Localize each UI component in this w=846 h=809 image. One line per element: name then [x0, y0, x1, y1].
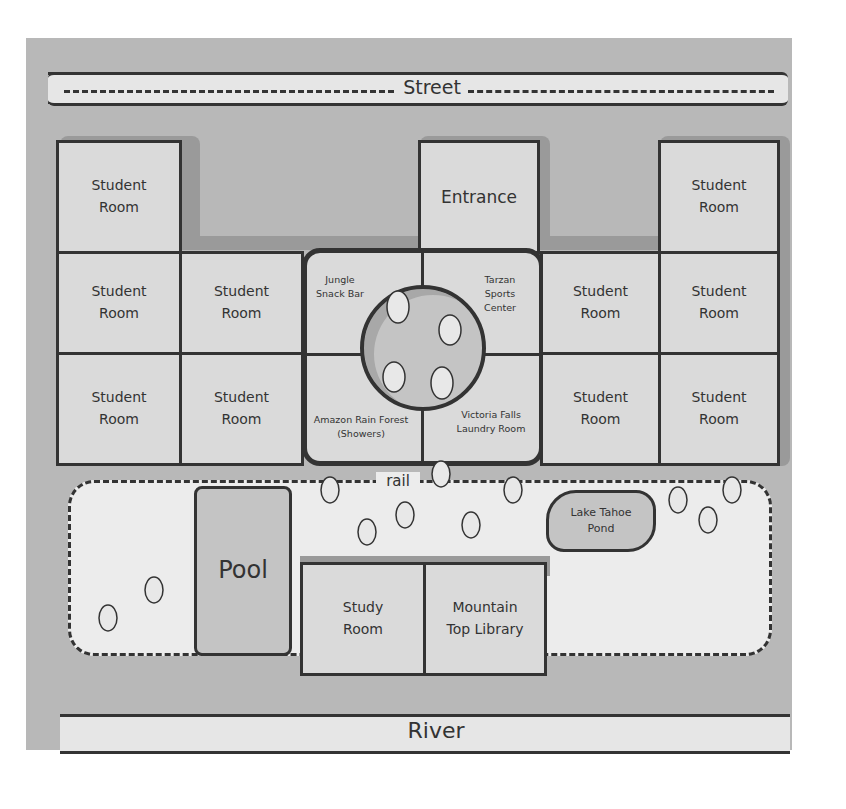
street-centerline	[468, 90, 774, 93]
mountain-top-library[interactable]: Mountain Top Library	[423, 562, 547, 676]
amazon-rain-forest-showers[interactable]: Amazon Rain Forest (Showers)	[311, 413, 411, 441]
trail-label: rail	[376, 472, 420, 490]
center-block: Jungle Snack Bar Tarzan Sports Center Am…	[302, 248, 544, 466]
courtyard[interactable]	[360, 285, 486, 411]
building-shadow	[540, 236, 660, 250]
tarzan-sports-center[interactable]: Tarzan Sports Center	[475, 273, 525, 314]
student-room[interactable]: Student Room	[56, 352, 182, 466]
pool[interactable]: Pool	[194, 486, 292, 656]
student-room[interactable]: Student Room	[540, 352, 661, 466]
lake-tahoe-pond[interactable]: Lake Tahoe Pond	[546, 490, 656, 552]
student-room[interactable]: Student Room	[56, 251, 182, 355]
street-centerline	[64, 90, 394, 93]
street-label: Street	[396, 76, 468, 98]
victoria-falls-laundry-room[interactable]: Victoria Falls Laundry Room	[445, 408, 537, 436]
student-room[interactable]: Student Room	[540, 251, 661, 355]
jungle-snack-bar[interactable]: Jungle Snack Bar	[315, 273, 365, 301]
student-room[interactable]: Student Room	[179, 352, 304, 466]
student-room[interactable]: Student Room	[658, 251, 780, 355]
study-room[interactable]: Study Room	[300, 562, 426, 676]
student-room[interactable]: Student Room	[179, 251, 304, 355]
student-room[interactable]: Student Room	[56, 140, 182, 254]
student-room[interactable]: Student Room	[658, 352, 780, 466]
entrance[interactable]: Entrance	[418, 140, 540, 254]
river-label: River	[396, 718, 476, 743]
student-room[interactable]: Student Room	[658, 140, 780, 254]
